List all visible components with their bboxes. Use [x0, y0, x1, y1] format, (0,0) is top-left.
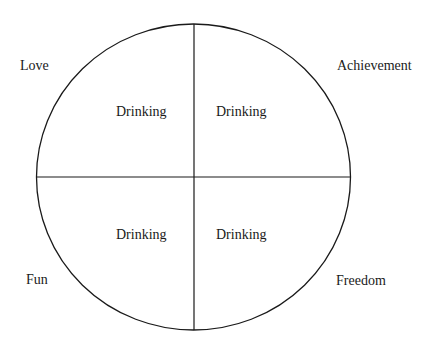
label-fun: Fun — [26, 272, 48, 288]
label-freedom: Freedom — [336, 273, 386, 289]
quadrant-bottom-right-text: Drinking — [216, 227, 267, 243]
quadrant-top-right-text: Drinking — [216, 104, 267, 120]
quadrant-bottom-left-text: Drinking — [116, 227, 167, 243]
quadrant-top-left-text: Drinking — [116, 104, 167, 120]
label-achievement: Achievement — [337, 58, 412, 74]
quadrant-circle-diagram — [0, 0, 440, 353]
label-love: Love — [20, 58, 49, 74]
